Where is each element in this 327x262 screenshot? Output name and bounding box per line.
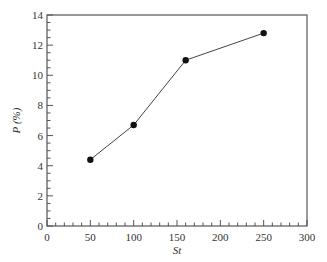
data-point-marker (182, 57, 188, 63)
y-tick-label: 2 (38, 190, 44, 202)
data-point-marker (130, 122, 136, 128)
x-tick-label: 0 (44, 231, 50, 243)
minor-ticks (47, 23, 298, 226)
y-tick-label: 4 (38, 160, 44, 172)
series-line (90, 33, 263, 160)
plot-frame (47, 15, 307, 226)
data-point-marker (260, 30, 266, 36)
major-ticks (47, 15, 307, 226)
x-axis-title: St (173, 244, 183, 256)
y-tick-labels: 02468101214 (32, 9, 44, 232)
y-tick-label: 0 (38, 220, 44, 232)
y-tick-label: 12 (32, 39, 43, 51)
x-tick-label: 250 (255, 231, 272, 243)
x-tick-label: 300 (299, 231, 316, 243)
x-tick-labels: 050100150200250300 (44, 231, 316, 243)
y-axis-title: P (%) (10, 107, 23, 134)
y-tick-label: 10 (32, 69, 44, 81)
x-tick-label: 50 (85, 231, 97, 243)
x-tick-label: 150 (169, 231, 186, 243)
y-tick-label: 8 (38, 99, 44, 111)
data-point-marker (87, 156, 93, 162)
y-tick-label: 6 (38, 130, 44, 142)
y-tick-label: 14 (32, 9, 44, 21)
x-tick-label: 200 (212, 231, 229, 243)
series-markers (87, 30, 267, 163)
x-tick-label: 100 (125, 231, 142, 243)
line-chart: 050100150200250300 02468101214 St P (%) (0, 0, 327, 262)
